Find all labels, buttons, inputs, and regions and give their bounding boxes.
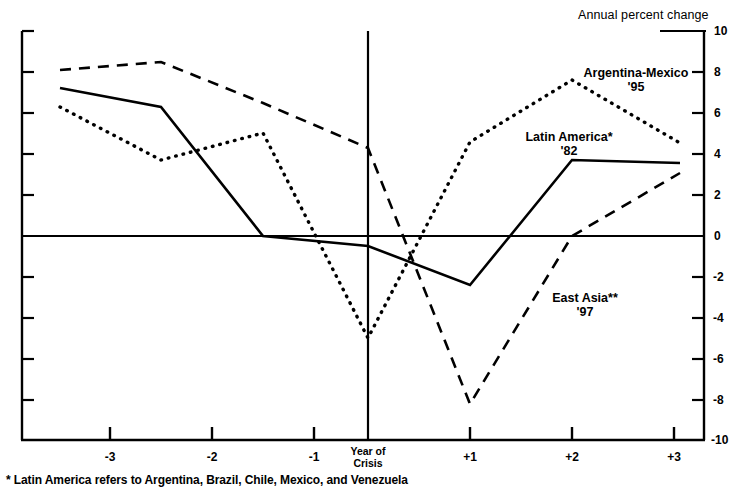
x-tick-label-minus3: -3: [105, 450, 116, 464]
y-tick-label-neg8: -8: [713, 393, 724, 407]
east-asia-label-line2: '97: [552, 305, 618, 319]
series-label-argentina-mexico: Argentina-Mexico '95: [584, 66, 689, 94]
footnote-latin-america-definition: * Latin America refers to Argentina, Bra…: [6, 473, 408, 487]
latin-america-label-line2: '82: [525, 144, 612, 158]
argentina-mexico-label-line1: Argentina-Mexico: [584, 66, 689, 80]
crisis-label-line2: Crisis: [350, 458, 385, 470]
y-tick-label-10: 10: [714, 24, 727, 38]
series-line-east-asia: [60, 62, 680, 404]
y-tick-label-neg4: -4: [713, 311, 724, 325]
y-tick-label-neg6: -6: [713, 352, 724, 366]
x-axis-ticks: [110, 427, 674, 440]
y-tick-label-2: 2: [714, 188, 721, 202]
series-label-east-asia: East Asia** '97: [552, 291, 618, 319]
series-label-latin-america: Latin America* '82: [525, 130, 612, 158]
y-tick-label-0: 0: [714, 229, 721, 243]
y-tick-label-8: 8: [714, 65, 721, 79]
x-tick-label-crisis-year: Year of Crisis: [350, 446, 385, 469]
y-tick-label-6: 6: [714, 106, 721, 120]
y-tick-label-neg2: -2: [713, 270, 724, 284]
x-tick-label-plus2: +2: [565, 450, 579, 464]
x-tick-label-minus1: -1: [309, 450, 320, 464]
latin-america-label-line1: Latin America*: [525, 130, 612, 144]
x-tick-label-plus3: +3: [667, 450, 681, 464]
x-tick-label-plus1: +1: [463, 450, 477, 464]
argentina-mexico-label-line2: '95: [584, 80, 689, 94]
series-line-latin-america: [60, 88, 680, 285]
y-tick-label-4: 4: [714, 147, 721, 161]
y-axis-left-ticks: [22, 31, 34, 400]
chart-container: Annual percent change: [0, 0, 749, 489]
x-tick-label-minus2: -2: [207, 450, 218, 464]
y-tick-label-neg10: -10: [711, 433, 728, 447]
crisis-label-line1: Year of: [350, 446, 385, 458]
east-asia-label-line1: East Asia**: [552, 291, 618, 305]
